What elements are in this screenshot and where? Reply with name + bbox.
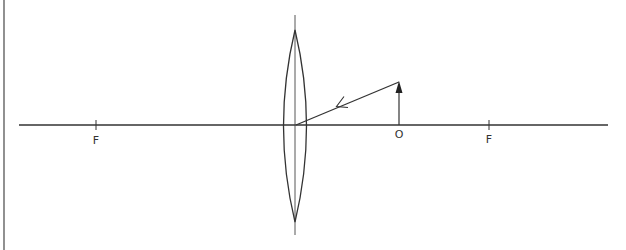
focal-point-left: F bbox=[93, 120, 99, 147]
light-ray bbox=[296, 82, 399, 125]
focal-label-left: F bbox=[93, 134, 99, 147]
optics-diagram: F O F bbox=[0, 0, 626, 250]
focal-point-right: F bbox=[486, 120, 492, 146]
object-label: O bbox=[395, 128, 404, 141]
focal-label-right: F bbox=[486, 133, 492, 146]
object-arrow: O bbox=[395, 81, 404, 141]
ray-line bbox=[296, 82, 399, 125]
